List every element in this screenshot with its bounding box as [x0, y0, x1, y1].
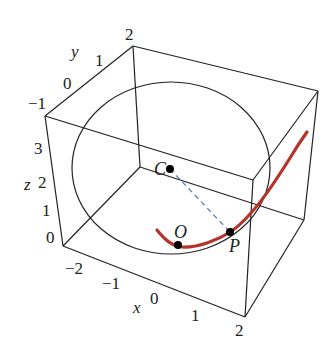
x-tick-0: 0 — [150, 289, 159, 308]
bounding-box — [45, 46, 318, 317]
z-axis-label: z — [23, 175, 31, 194]
z-tick-2: 2 — [38, 173, 47, 192]
x-tick-1: 1 — [191, 306, 200, 325]
z-tick-0: 0 — [46, 228, 55, 247]
x-tick-neg2: −2 — [65, 259, 83, 278]
y-tick-0: 0 — [63, 74, 72, 93]
box-edge-back-bottom-left — [63, 167, 140, 246]
box-edge-top-left — [45, 46, 133, 116]
y-axis-label: y — [69, 42, 79, 61]
x-tick-2: 2 — [235, 321, 244, 340]
3d-plot: C O P −1 0 1 2 y 3 2 1 0 z −2 −1 0 1 2 x — [0, 0, 335, 351]
box-edge-back-vertical — [133, 46, 140, 167]
y-tick-neg1: −1 — [28, 94, 46, 113]
box-edge-right-vertical — [304, 91, 318, 220]
label-c: C — [154, 159, 167, 179]
y-tick-2: 2 — [125, 25, 134, 44]
box-edge-bottom-right — [245, 220, 304, 317]
point-c — [166, 165, 174, 173]
box-edge-front-vertical — [245, 180, 253, 317]
box-edge-top-back — [133, 46, 318, 91]
z-tick-3: 3 — [34, 139, 43, 158]
y-tick-1: 1 — [95, 51, 104, 70]
x-axis-label: x — [132, 298, 141, 317]
x-tick-neg1: −1 — [102, 274, 120, 293]
point-p — [226, 228, 234, 236]
point-o — [174, 241, 182, 249]
label-p: P — [228, 236, 240, 256]
z-tick-1: 1 — [42, 201, 51, 220]
box-edge-left-vertical — [45, 116, 63, 246]
label-o: O — [174, 222, 187, 242]
